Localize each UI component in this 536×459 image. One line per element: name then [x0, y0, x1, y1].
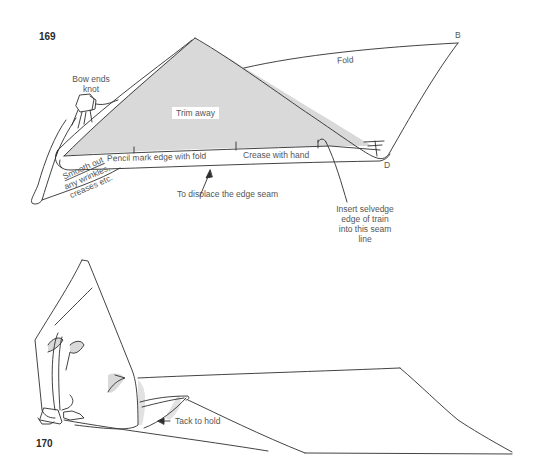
- label-crease-with-hand: Crease with hand: [243, 150, 309, 160]
- label-point-d: D: [384, 160, 390, 170]
- diagram-canvas: [0, 0, 536, 459]
- train-fold-diagonal: [188, 400, 305, 453]
- label-bow-ends-knot: Bow ends knot: [66, 74, 116, 94]
- train-bottom-edge: [305, 453, 512, 454]
- label-bow-ends-knot-line2: knot: [66, 84, 116, 94]
- train-top-edge: [138, 368, 400, 378]
- figure-number-169: 169: [39, 31, 56, 42]
- train-lower-sweep: [64, 420, 268, 451]
- arrow-displace-seam-head: [206, 170, 212, 178]
- bow-knot-end: [64, 411, 84, 420]
- label-insert-selvedge-line1: Insert selvedge: [330, 204, 400, 214]
- trim-away-region: [64, 38, 372, 156]
- cape-outline: [75, 260, 138, 429]
- tuck-fold-top: [140, 396, 189, 402]
- label-insert-selvedge-line2: edge of train: [330, 214, 400, 224]
- label-fold: Fold: [337, 54, 354, 65]
- figure-170-drawing: [35, 260, 512, 454]
- label-tack-to-hold: Tack to hold: [175, 416, 220, 426]
- bow-knot-170: [40, 408, 62, 424]
- fold-band-curl: [55, 150, 62, 168]
- label-point-b: B: [455, 30, 461, 40]
- label-insert-selvedge: Insert selvedge edge of train into this …: [330, 204, 400, 244]
- label-insert-selvedge-line4: line: [330, 234, 400, 244]
- cape-inner-fold-1: [55, 288, 92, 325]
- label-insert-selvedge-line3: into this seam: [330, 224, 400, 234]
- shade-3: [108, 374, 125, 393]
- cape-inner-fold-3: [59, 337, 62, 410]
- shade-4: [138, 380, 145, 425]
- cape-bottom-detail: [62, 395, 73, 410]
- train-right-edge: [400, 368, 512, 452]
- figure-number-170: 170: [36, 438, 53, 449]
- arrow-insert-selvedge: [326, 142, 347, 202]
- label-displace-seam: To displace the edge seam: [177, 189, 278, 199]
- label-trim-away: Trim away: [172, 107, 219, 119]
- label-bow-ends-knot-line1: Bow ends: [66, 74, 116, 84]
